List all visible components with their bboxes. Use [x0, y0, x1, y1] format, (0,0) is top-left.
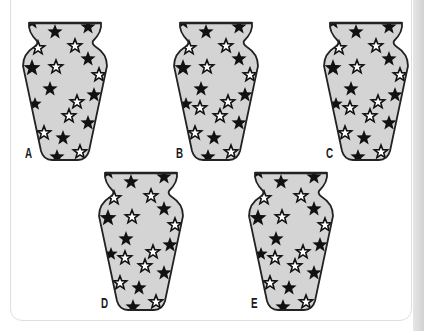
vase-icon — [323, 22, 415, 164]
option-a[interactable]: A — [22, 22, 114, 164]
option-label: D — [101, 296, 108, 310]
vase-icon — [98, 172, 190, 314]
vase-icon — [22, 22, 114, 164]
option-label: E — [251, 296, 258, 310]
option-label: B — [176, 146, 183, 160]
option-e[interactable]: E — [248, 172, 340, 314]
vase-icon — [173, 22, 265, 164]
option-d[interactable]: D — [98, 172, 190, 314]
option-label: A — [25, 146, 32, 160]
option-b[interactable]: B — [173, 22, 265, 164]
option-label: C — [326, 146, 333, 160]
vase-icon — [248, 172, 340, 314]
option-c[interactable]: C — [323, 22, 415, 164]
